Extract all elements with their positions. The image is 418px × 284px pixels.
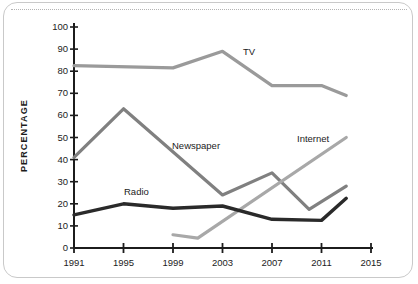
y-tick-label: 80 [38, 65, 68, 76]
y-tick-label: 40 [38, 154, 68, 165]
x-tick-label: 2003 [203, 257, 243, 268]
x-tick-label: 1995 [104, 257, 144, 268]
y-axis-title: PERCENTAGE [17, 86, 31, 186]
x-tick-label: 1991 [54, 257, 94, 268]
y-tick-label: 90 [38, 43, 68, 54]
x-tick-label: 1999 [153, 257, 193, 268]
y-tick-label: 70 [38, 87, 68, 98]
y-tick-label: 30 [38, 176, 68, 187]
y-tick-label: 10 [38, 220, 68, 231]
series-line-tv [74, 51, 346, 95]
x-tick-label: 2015 [351, 257, 391, 268]
y-tick-label: 50 [38, 132, 68, 143]
y-tick-label: 60 [38, 109, 68, 120]
series-label-radio: Radio [124, 186, 149, 197]
x-tick-label: 2011 [302, 257, 342, 268]
series-line-internet [173, 138, 346, 239]
series-line-radio [74, 198, 346, 220]
y-tick-label: 20 [38, 198, 68, 209]
series-label-newspaper: Newspaper [172, 140, 220, 151]
series-label-tv: TV [243, 46, 255, 57]
y-tick-label: 100 [38, 21, 68, 32]
series-line-newspaper [74, 109, 346, 210]
x-tick-label: 2007 [252, 257, 292, 268]
chart-plot-area: PERCENTAGE 1009080706050403020100 199119… [0, 0, 418, 284]
y-tick-label: 0 [38, 242, 68, 253]
chart-screenshot: PERCENTAGE 1009080706050403020100 199119… [0, 0, 418, 284]
series-label-internet: Internet [297, 133, 329, 144]
